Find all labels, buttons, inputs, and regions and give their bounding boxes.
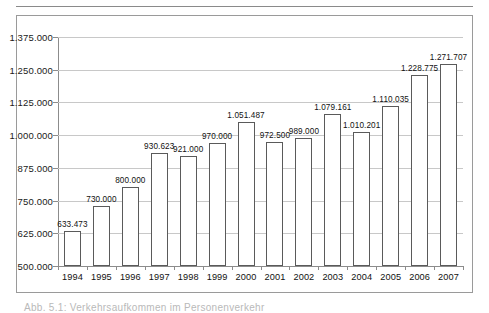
x-axis-tick <box>116 266 117 270</box>
gridline <box>58 233 463 234</box>
x-axis-tick <box>405 266 406 270</box>
bar-value-label: 1.010.201 <box>343 121 380 130</box>
caption-clip: Abb. 5.1: Verkehrsaufkommen im Personenv… <box>16 303 473 313</box>
bar <box>151 153 168 266</box>
x-axis-tick <box>203 266 204 270</box>
x-axis-tick <box>261 266 262 270</box>
bar-value-label: 970.000 <box>202 132 232 141</box>
x-axis-tick <box>87 266 88 270</box>
y-axis-labels: 500.000625.000750.000875.0001.000.0001.1… <box>17 16 53 294</box>
x-axis-tick <box>434 266 435 270</box>
bar <box>266 142 283 266</box>
x-axis-tick-label: 1996 <box>120 272 141 282</box>
x-axis-tick-label: 2004 <box>351 272 372 282</box>
bar-value-label: 800.000 <box>115 176 145 185</box>
x-axis-tick-label: 2007 <box>438 272 459 282</box>
gridline <box>58 201 463 202</box>
bar-value-label: 1.051.487 <box>227 111 264 120</box>
gridline <box>58 37 463 38</box>
y-axis-tick-label: 500.000 <box>18 261 53 272</box>
bar-value-label: 1.228.775 <box>401 64 438 73</box>
bar-value-label: 1.271.707 <box>430 53 467 62</box>
x-axis-tick <box>347 266 348 270</box>
x-axis-tick-label: 2003 <box>322 272 343 282</box>
x-axis-tick-label: 1999 <box>207 272 228 282</box>
x-axis-tick-label: 2001 <box>265 272 286 282</box>
bar <box>180 156 197 266</box>
bar-chart: 500.000625.000750.000875.0001.000.0001.1… <box>17 16 474 294</box>
top-horizontal-rule <box>16 6 473 7</box>
bar <box>209 143 226 266</box>
x-axis-tick <box>318 266 319 270</box>
x-axis-tick <box>289 266 290 270</box>
bar-value-label: 633.473 <box>57 220 87 229</box>
bar <box>353 132 370 266</box>
y-axis-tick-label: 1.375.000 <box>9 32 53 43</box>
bar <box>122 187 139 266</box>
bar-value-label: 921.000 <box>173 145 203 154</box>
x-axis-tick <box>463 266 464 270</box>
x-axis-tick-label: 1994 <box>62 272 83 282</box>
y-axis-tick-label: 1.125.000 <box>9 97 53 108</box>
x-axis-tick <box>58 266 59 270</box>
bar-value-label: 1.110.035 <box>372 95 409 104</box>
bar <box>238 122 255 266</box>
bar-value-label: 930.623 <box>144 142 174 151</box>
bar-value-label: 730.000 <box>86 195 116 204</box>
x-axis-tick <box>145 266 146 270</box>
y-axis-tick-label: 1.000.000 <box>9 130 53 141</box>
chart-frame: 500.000625.000750.000875.0001.000.0001.1… <box>16 15 473 293</box>
y-axis-tick-label: 875.000 <box>18 162 53 173</box>
bar <box>295 138 312 266</box>
bar <box>440 64 457 266</box>
x-axis-tick-label: 2006 <box>409 272 430 282</box>
y-axis-tick-label: 625.000 <box>18 228 53 239</box>
bar <box>93 206 110 266</box>
bar-value-label: 972.500 <box>260 131 290 140</box>
y-axis-tick-label: 1.250.000 <box>9 64 53 75</box>
bar-value-label: 1.079.161 <box>314 103 351 112</box>
y-axis-tick-label: 750.000 <box>18 195 53 206</box>
x-axis-tick-label: 1998 <box>178 272 199 282</box>
bar-value-label: 989.000 <box>289 127 319 136</box>
x-axis-tick-label: 2005 <box>380 272 401 282</box>
figure-caption: Abb. 5.1: Verkehrsaufkommen im Personenv… <box>24 303 265 313</box>
bar <box>382 106 399 266</box>
bar <box>411 75 428 266</box>
x-axis-tick <box>174 266 175 270</box>
x-axis-tick <box>376 266 377 270</box>
x-axis-tick-label: 1997 <box>149 272 170 282</box>
bar <box>64 231 81 266</box>
x-axis-tick-label: 1995 <box>91 272 112 282</box>
x-axis-tick-label: 2002 <box>293 272 314 282</box>
gridline <box>58 168 463 169</box>
x-axis-tick-label: 2000 <box>236 272 257 282</box>
bar <box>324 114 341 266</box>
x-axis-tick <box>232 266 233 270</box>
